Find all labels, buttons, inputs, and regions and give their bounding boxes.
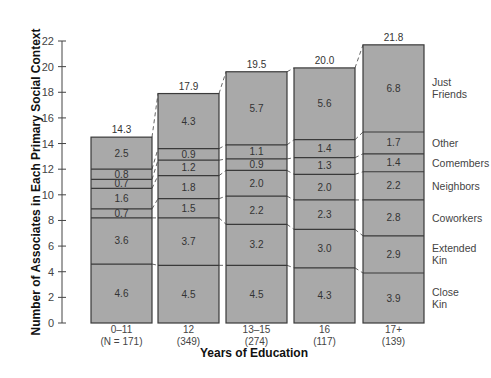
connector-line — [355, 45, 363, 68]
legend-label: Just — [432, 76, 451, 88]
bars: 4.63.60.71.60.70.82.514.34.53.71.51.81.2… — [91, 32, 424, 323]
segment-value: 2.2 — [387, 180, 401, 191]
segment-value: 2.9 — [387, 249, 401, 260]
legend-label: Kin — [432, 298, 447, 310]
connector-line — [287, 158, 294, 159]
y-tick-label: 16 — [42, 112, 54, 124]
bar-5: 3.92.92.82.21.41.76.821.8 — [363, 32, 424, 323]
x-axis-title: Years of Education — [200, 346, 308, 360]
connector-line — [355, 154, 363, 158]
segment-value: 2.0 — [318, 182, 332, 193]
connector-line — [152, 264, 158, 265]
connector-line — [355, 229, 363, 235]
connector-line — [219, 170, 226, 175]
segment-value: 0.8 — [115, 169, 129, 180]
connector-line — [355, 268, 363, 273]
segment-value: 3.0 — [318, 243, 332, 254]
x-category-label: 0–11 — [111, 324, 133, 335]
y-tick-label: 18 — [42, 86, 54, 98]
y-tick-label: 22 — [42, 35, 54, 47]
bar-1: 4.63.60.71.60.70.82.514.3 — [91, 124, 152, 323]
y-tick-label: 12 — [42, 163, 54, 175]
connector-line — [219, 72, 226, 94]
segment-value: 2.3 — [318, 209, 332, 220]
segment-value: 0.9 — [182, 149, 196, 160]
segment-value: 4.5 — [250, 289, 264, 300]
total-value: 14.3 — [112, 124, 132, 135]
connector-line — [287, 68, 294, 72]
segment-value: 1.1 — [250, 146, 264, 157]
legend: CloseKinExtendedKinCoworkersNeighborsCom… — [432, 76, 489, 310]
y-tick-label: 0 — [48, 317, 54, 329]
y-tick-label: 6 — [48, 240, 54, 252]
connector-line — [287, 140, 294, 145]
legend-label: Friends — [432, 88, 467, 100]
x-category-sublabel: (N = 171) — [101, 336, 143, 347]
segment-value: 3.6 — [115, 235, 129, 246]
connector-line — [287, 265, 294, 268]
bar-4: 4.33.02.32.01.31.45.620.0 — [294, 55, 355, 323]
x-category-label: 17+ — [385, 324, 402, 335]
segment-value: 0.9 — [250, 159, 264, 170]
bar-2: 4.53.71.51.81.20.94.317.9 — [158, 81, 219, 323]
segment-value: 3.2 — [250, 239, 264, 250]
total-value: 21.8 — [384, 32, 404, 43]
connector-line — [355, 132, 363, 140]
segment-value: 4.3 — [182, 116, 196, 127]
legend-label: Comembers — [432, 157, 489, 169]
x-category-sublabel: (349) — [177, 336, 200, 347]
segment-value: 2.2 — [250, 205, 264, 216]
segment-value: 1.2 — [182, 162, 196, 173]
connector-line — [152, 199, 158, 209]
connector-line — [219, 145, 226, 149]
segment-value: 4.6 — [115, 288, 129, 299]
segment-value: 4.5 — [182, 289, 196, 300]
connector-line — [287, 224, 294, 229]
y-tick-label: 4 — [48, 266, 54, 278]
connector-line — [287, 170, 294, 174]
segment-value: 3.7 — [182, 236, 196, 247]
segment-value: 1.6 — [115, 193, 129, 204]
connector-line — [219, 218, 226, 224]
y-tick-label: 20 — [42, 61, 54, 73]
connector-line — [287, 196, 294, 200]
connector-line — [152, 160, 158, 179]
x-category-sublabel: (139) — [382, 336, 405, 347]
total-value: 19.5 — [247, 59, 267, 70]
segment-value: 2.8 — [387, 212, 401, 223]
segment-value: 2.5 — [115, 148, 129, 159]
y-tick-label: 2 — [48, 291, 54, 303]
y-axis: 0246810121416182022 — [42, 35, 66, 329]
segment-value: 3.9 — [387, 293, 401, 304]
segment-value: 1.8 — [182, 182, 196, 193]
y-tick-label: 10 — [42, 189, 54, 201]
segment-value: 1.4 — [387, 157, 401, 168]
segment-value: 5.6 — [318, 98, 332, 109]
x-category-label: 16 — [319, 324, 331, 335]
connector-line — [219, 159, 226, 160]
segment-value: 1.3 — [318, 160, 332, 171]
stacked-bar-chart: 0246810121416182022 4.63.60.71.60.70.82.… — [0, 0, 491, 378]
y-tick-label: 8 — [48, 214, 54, 226]
segment-value: 5.7 — [250, 103, 264, 114]
connector-line — [219, 196, 226, 199]
segment-value: 1.5 — [182, 203, 196, 214]
connector-line — [152, 149, 158, 170]
segment-value: 1.4 — [318, 143, 332, 154]
segment-value: 4.3 — [318, 290, 332, 301]
y-axis-title: Number of Associates in Each Primary Soc… — [29, 29, 43, 336]
legend-label: Kin — [432, 254, 447, 266]
segment-value: 6.8 — [387, 83, 401, 94]
bar-3: 4.53.22.22.00.91.15.719.5 — [226, 59, 287, 323]
x-category-label: 12 — [183, 324, 195, 335]
x-axis-labels: 0–11(N = 171)12(349)13–15(274)16(117)17+… — [101, 324, 406, 347]
legend-label: Other — [432, 137, 459, 149]
connector-line — [355, 172, 363, 175]
x-category-label: 13–15 — [243, 324, 271, 335]
legend-label: Extended — [432, 242, 477, 254]
legend-label: Coworkers — [432, 212, 482, 224]
segment-value: 2.0 — [250, 178, 264, 189]
legend-label: Close — [432, 286, 459, 298]
total-value: 20.0 — [315, 55, 335, 66]
legend-label: Neighbors — [432, 180, 480, 192]
